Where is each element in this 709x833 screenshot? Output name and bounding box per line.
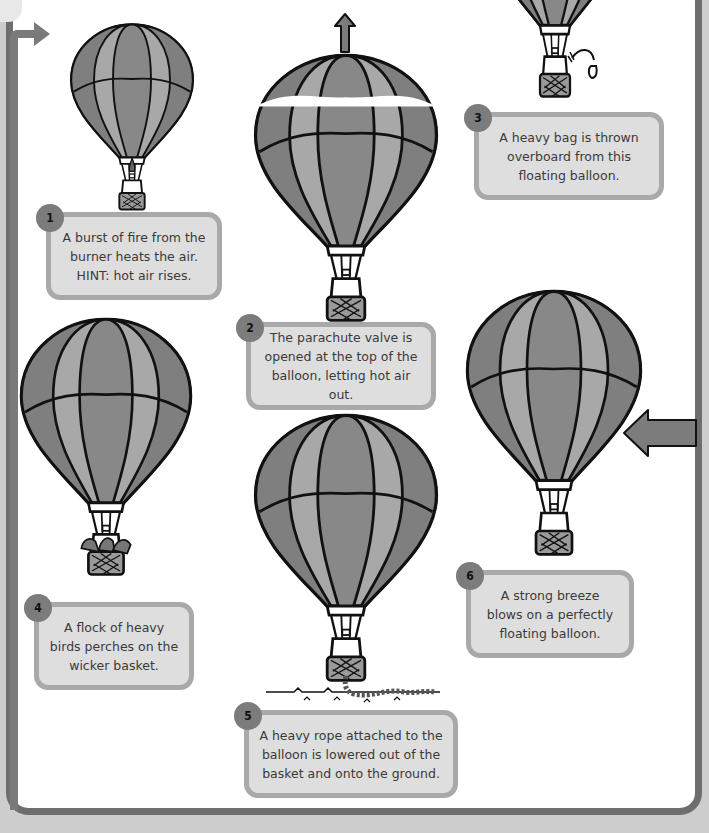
step-badge-1: 1 <box>36 204 64 232</box>
caption-card-3: A heavy bag is thrown overboard from thi… <box>474 112 664 200</box>
balloon-4-illustration <box>18 316 194 578</box>
step-badge-3: 3 <box>464 104 492 132</box>
caption-text: A strong breeze blows on a perfectly flo… <box>487 586 613 643</box>
balloon-1-illustration <box>66 22 198 212</box>
caption-text: A heavy bag is thrown overboard from thi… <box>499 128 639 185</box>
rope-icon <box>264 676 440 704</box>
balloon-5-illustration <box>252 412 440 684</box>
caption-text: A burst of fire from the burner heats th… <box>63 228 206 285</box>
step-badge-5: 5 <box>234 702 262 730</box>
caption-text: A flock of heavy birds perches on the wi… <box>50 618 178 675</box>
arrow-left-icon <box>622 408 698 458</box>
arrow-up-icon <box>333 12 357 54</box>
flow-connector-line <box>10 30 18 810</box>
step-badge-2: 2 <box>236 314 264 342</box>
balloon-2-illustration <box>252 52 440 324</box>
arrow-right-icon <box>34 22 50 46</box>
caption-card-5: A heavy rope attached to the balloon is … <box>244 710 458 798</box>
caption-card-2: The parachute valve is opened at the top… <box>246 322 436 410</box>
sandbag-icon <box>566 46 602 88</box>
balloon-3-illustration <box>480 0 630 100</box>
step-badge-4: 4 <box>24 594 52 622</box>
caption-card-6: A strong breeze blows on a perfectly flo… <box>466 570 634 658</box>
balloon-6-illustration <box>464 288 644 558</box>
caption-text: The parachute valve is opened at the top… <box>261 328 421 404</box>
caption-card-1: A burst of fire from the burner heats th… <box>46 212 222 300</box>
birds-icon <box>81 538 130 553</box>
step-badge-6: 6 <box>456 562 484 590</box>
caption-card-4: A flock of heavy birds perches on the wi… <box>34 602 194 690</box>
caption-text: A heavy rope attached to the balloon is … <box>259 726 442 783</box>
